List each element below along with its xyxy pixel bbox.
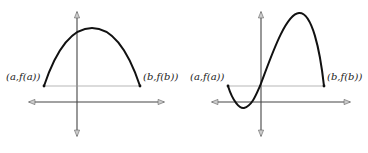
right-label-b: (b,f(b))	[327, 71, 362, 82]
right-curve	[228, 13, 324, 108]
left-label-a: (a,f(a))	[6, 71, 41, 82]
left-point-a	[43, 85, 46, 88]
figure-canvas: (a,f(a)) (b,f(b)) (a,f(a)) (b,f(b))	[0, 0, 368, 153]
right-graph: (a,f(a)) (b,f(b))	[190, 12, 362, 136]
left-curve	[44, 28, 140, 86]
right-point-b	[323, 85, 326, 88]
left-label-b: (b,f(b))	[143, 71, 178, 82]
right-label-a: (a,f(a))	[190, 71, 225, 82]
left-point-b	[139, 85, 142, 88]
left-graph: (a,f(a)) (b,f(b))	[6, 12, 178, 136]
right-point-a	[227, 85, 230, 88]
